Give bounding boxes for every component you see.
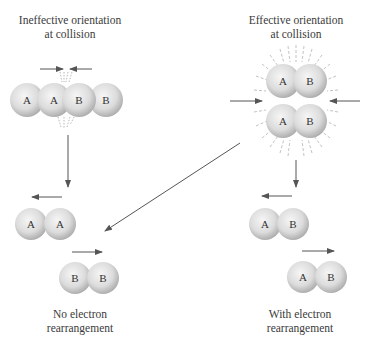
svg-text:A: A xyxy=(27,218,35,230)
svg-text:B: B xyxy=(71,272,78,284)
molecule-AB-2: A B xyxy=(287,261,347,293)
molecule-chain-AABB: A A B B xyxy=(10,83,123,117)
ineffective-title: Ineffective orientation at collision xyxy=(0,13,140,41)
svg-text:A: A xyxy=(23,94,31,106)
svg-text:A: A xyxy=(279,75,287,87)
molecule-cluster-AB-AB: A B A B xyxy=(266,64,327,138)
with-rearrangement-label: With electron rearrangement xyxy=(240,307,360,335)
svg-text:A: A xyxy=(299,271,307,283)
ineffective-collision-group: A A B B A A B B xyxy=(10,69,123,294)
effective-collision-group: A B A B A B A B xyxy=(230,45,360,293)
svg-text:A: A xyxy=(279,115,287,127)
svg-text:B: B xyxy=(75,94,82,106)
svg-text:A: A xyxy=(56,218,64,230)
svg-text:B: B xyxy=(327,271,334,283)
diagonal-arrow xyxy=(105,143,240,231)
molecule-AB-1: A B xyxy=(249,208,309,240)
svg-text:B: B xyxy=(306,75,313,87)
no-rearrangement-label: No electron rearrangement xyxy=(20,307,140,335)
svg-text:A: A xyxy=(50,94,58,106)
svg-text:A: A xyxy=(261,218,269,230)
svg-text:B: B xyxy=(289,218,296,230)
svg-text:B: B xyxy=(102,94,109,106)
collision-diagram: A A B B A A B B xyxy=(0,0,374,343)
effective-title: Effective orientation at collision xyxy=(226,13,366,41)
molecule-BB: B B xyxy=(59,262,119,294)
svg-text:B: B xyxy=(99,272,106,284)
energy-burst-lines xyxy=(254,45,338,156)
svg-text:B: B xyxy=(306,115,313,127)
molecule-AA: A A xyxy=(15,208,76,240)
